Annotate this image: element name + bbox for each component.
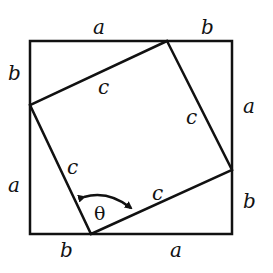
label-bottom-b: b [60,238,73,262]
inner-square [30,41,232,234]
label-bottom-a: a [170,238,182,262]
angle-arrow [84,195,131,208]
label-right-a: a [243,94,255,118]
label-left-b: b [8,61,21,85]
label-left-a: a [8,173,20,197]
label-c-top: c [98,75,109,99]
label-c-bottom: c [152,181,163,205]
label-top-b: b [201,15,214,39]
pythagorean-diagram: a b b a a b b a c c c c θ [0,0,273,273]
label-right-b: b [243,189,256,213]
label-top-a: a [93,15,105,39]
outer-square [30,41,232,234]
diagram-canvas: a b b a a b b a c c c c θ [0,0,273,273]
label-c-right: c [186,105,197,129]
label-theta: θ [94,202,105,224]
label-c-left: c [67,155,78,179]
